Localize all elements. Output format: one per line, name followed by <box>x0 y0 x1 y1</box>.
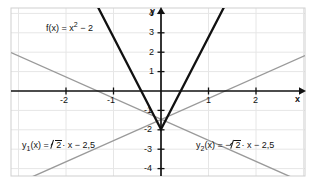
y-tick-label-neg2: -2 <box>144 124 152 134</box>
y-tick-label-neg4: -4 <box>144 163 152 173</box>
annotation-fx-exponent: 2 <box>74 21 78 28</box>
annotation-fx: f(x) = x2 − 2 <box>46 21 93 33</box>
annotation-y1-radicand: 2 <box>55 140 62 150</box>
annotation-y2-mid: (x) = − <box>204 140 230 150</box>
sqrt-icon: 2 <box>230 140 241 150</box>
annotation-y1-mid: (x) = <box>30 140 48 150</box>
annotation-y2-radicand: 2 <box>234 140 241 150</box>
y-tick-label-2: 2 <box>149 47 154 57</box>
annotation-y1-tail: · x − 2,5 <box>62 140 95 150</box>
annotation-fx-prefix: f(x) = x <box>46 23 74 33</box>
y-tick-label-1: 1 <box>149 66 154 76</box>
annotation-y1: y1(x) = 2· x − 2,5 <box>22 140 95 152</box>
x-tick-label-1: 1 <box>206 95 211 105</box>
y-tick-label-4: 4 <box>149 8 154 18</box>
annotation-y2: y2(x) = −2· x − 2,5 <box>196 140 274 152</box>
x-tick-label-neg2: -2 <box>60 95 68 105</box>
x-tick-label-2: 2 <box>253 95 258 105</box>
annotation-y2-tail: · x − 2,5 <box>241 140 274 150</box>
x-axis-label: x <box>295 94 300 104</box>
y-tick-label-neg3: -3 <box>144 144 152 154</box>
x-tick-label-neg1: -1 <box>107 95 115 105</box>
plot-canvas: x y -2 -1 1 2 4 3 2 1 -1 -2 -3 -4 f(x) =… <box>0 0 316 189</box>
sqrt-icon: 2 <box>51 140 62 150</box>
y-tick-label-3: 3 <box>149 27 154 37</box>
y-tick-label-neg1: -1 <box>144 105 152 115</box>
annotation-fx-suffix: − 2 <box>80 23 93 33</box>
